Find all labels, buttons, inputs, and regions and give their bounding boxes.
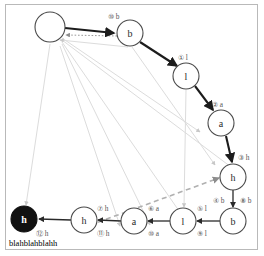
edge-a-h [226,136,232,162]
edge-n0-b [65,28,114,33]
node-label-n4: h [231,172,236,183]
edge-label-1: ① l [178,53,188,62]
node-label-n2: l [185,71,188,82]
edge-label-4: ④ b [213,196,225,205]
node-circle-n0[interactable] [35,12,65,42]
edge-label-0: ⑩ b [108,12,120,21]
edge-label-5: ⑧ b [240,196,252,205]
figure-caption: blahblahblahh [9,232,57,250]
graph-node-n4[interactable]: h [220,164,246,190]
edge-label-6: ⑤ l [197,204,207,213]
edge-h-accept [39,219,71,220]
edge-b-l [140,42,177,66]
node-group: blahblahh [11,12,246,234]
graph-node-n8[interactable]: h [71,207,97,233]
graph-node-n5[interactable]: b [220,208,246,234]
edge-label-11: ⑪ h [97,229,110,238]
graph-node-n9[interactable]: h [11,206,37,232]
graph-node-n6[interactable]: l [170,208,196,234]
edge-label-2: ② a [212,100,224,109]
automaton-graph: blahblahh ⑩ b① l② a③ h④ b⑧ b⑤ l⑨ l⑥ a⑩ a… [0,0,264,256]
faint-edge-group [26,38,235,226]
graph-node-n1[interactable]: b [117,20,143,46]
graph-node-n0[interactable] [35,12,65,42]
node-label-n1: b [128,28,133,39]
main-edge-group [65,28,232,162]
edge-l-a [195,86,213,110]
faint-fan-4 [62,44,150,225]
edge-label-3: ③ h [238,153,250,162]
dotted-b-to-n0 [66,35,117,36]
faint-fan-3 [62,42,186,221]
edge-label-10: ⑦ h [97,204,109,213]
graph-node-n3[interactable]: a [208,110,234,136]
faint-accept-up [26,44,50,205]
node-label-n8: h [82,215,87,226]
node-label-n5: b [231,216,236,227]
figure-canvas: blahblahh ⑩ b① l② a③ h④ b⑧ b⑤ l⑨ l⑥ a⑩ a… [0,0,264,256]
edge-label-8: ⑥ a [148,204,160,213]
node-label-n3: a [219,118,224,129]
node-label-n7: a [132,216,137,227]
node-label-n6: l [182,216,185,227]
caption-text: blahblahblahh [9,238,57,248]
faint-fan-5 [60,46,120,226]
edge-label-7: ⑨ l [197,229,207,238]
node-label-n9: h [21,214,27,225]
dotted-edge-group [66,35,117,36]
graph-node-n7[interactable]: a [121,208,147,234]
edge-label-9: ⑩ a [148,229,160,238]
graph-node-n2[interactable]: l [173,63,199,89]
